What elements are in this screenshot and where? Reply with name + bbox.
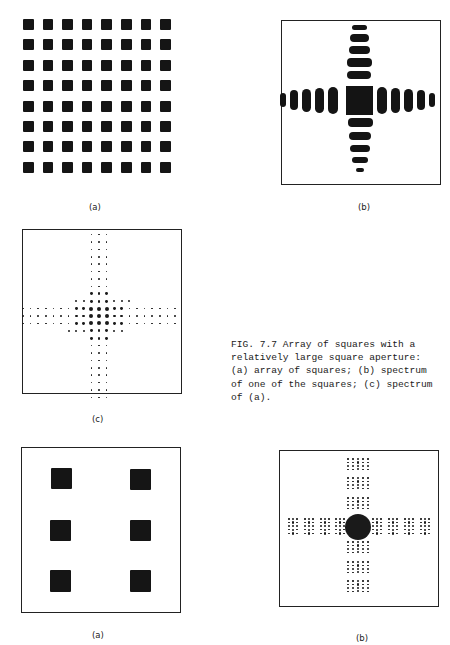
cluster-dot bbox=[347, 572, 348, 573]
cluster-dot bbox=[367, 477, 368, 478]
spectrum-dot bbox=[37, 323, 39, 325]
spectrum-dot bbox=[136, 315, 138, 317]
cluster-dot bbox=[380, 529, 381, 530]
cluster-dot bbox=[362, 561, 363, 562]
cluster-dot bbox=[304, 518, 305, 519]
cluster-dot bbox=[296, 518, 297, 519]
grid-square bbox=[101, 19, 112, 30]
grid-square bbox=[62, 162, 73, 173]
spectrum-dot bbox=[90, 337, 93, 340]
spectrum-dot bbox=[167, 308, 169, 310]
spectrum-dot bbox=[159, 315, 161, 317]
cluster-dot bbox=[367, 568, 369, 570]
cluster-dot bbox=[376, 529, 378, 531]
cluster-dot bbox=[372, 525, 374, 527]
cluster-dot bbox=[424, 521, 426, 523]
spectrum-dot bbox=[68, 315, 70, 317]
spectrum-dot bbox=[82, 322, 85, 325]
cluster-dot bbox=[347, 591, 348, 592]
cluster-dot bbox=[312, 522, 313, 523]
cluster-dot bbox=[304, 529, 305, 530]
spectrum-dot bbox=[144, 315, 146, 317]
cluster-dot bbox=[347, 458, 348, 459]
spectrum-dot bbox=[120, 307, 123, 310]
cluster-dot bbox=[347, 565, 348, 566]
lobe-top bbox=[352, 25, 367, 30]
cluster-dot bbox=[404, 529, 405, 530]
grid-square bbox=[82, 101, 93, 112]
spectrum-dot bbox=[98, 292, 101, 295]
cluster-dot bbox=[347, 469, 348, 470]
spectrum-dot bbox=[53, 323, 55, 325]
cluster-dot bbox=[362, 568, 364, 570]
spectrum-dot bbox=[106, 249, 108, 251]
cluster-dot bbox=[352, 541, 353, 542]
cluster-dot bbox=[362, 504, 364, 506]
spectrum-dot bbox=[113, 307, 116, 310]
grid-square bbox=[121, 19, 132, 30]
cluster-dot bbox=[367, 580, 368, 581]
grid-square bbox=[23, 60, 34, 71]
cluster-dot bbox=[357, 544, 359, 546]
grid-square bbox=[101, 162, 112, 173]
cluster-dot bbox=[347, 508, 348, 509]
spectrum-dot bbox=[37, 308, 39, 310]
spectrum-dot bbox=[91, 286, 93, 288]
spectrum-dot bbox=[91, 397, 93, 399]
cluster-dot bbox=[362, 458, 363, 459]
lobe-top bbox=[347, 71, 371, 79]
cluster-dot bbox=[357, 465, 359, 467]
cluster-dot bbox=[367, 561, 368, 562]
cluster-dot bbox=[304, 533, 305, 534]
spectrum-dot bbox=[113, 315, 116, 318]
spectrum-dot bbox=[98, 352, 100, 354]
lobe-bottom bbox=[348, 118, 373, 127]
spectrum-dot bbox=[75, 307, 78, 310]
spectrum-dot bbox=[106, 374, 108, 376]
grid-square bbox=[62, 101, 73, 112]
spectrum-dot bbox=[30, 315, 32, 317]
cluster-dot bbox=[296, 522, 297, 523]
spectrum-dot bbox=[98, 337, 101, 340]
cluster-dot bbox=[392, 532, 394, 534]
cluster-dot bbox=[324, 532, 326, 534]
cluster-dot bbox=[352, 552, 353, 553]
single-square-spectrum-pattern bbox=[281, 20, 441, 185]
spectrum-dot bbox=[91, 374, 93, 376]
grid-square bbox=[160, 60, 171, 71]
cluster-dot bbox=[328, 522, 329, 523]
cluster-dot bbox=[362, 565, 363, 566]
grid-square bbox=[101, 39, 112, 50]
cluster-dot bbox=[352, 488, 353, 489]
spectrum-dot bbox=[98, 263, 100, 265]
cluster-dot bbox=[362, 552, 363, 553]
cluster-dot bbox=[347, 497, 348, 498]
spectrum-dot bbox=[128, 300, 130, 302]
cluster-dot bbox=[404, 525, 406, 527]
panel-label-top-b: (b) bbox=[358, 202, 370, 212]
spectrum-dot bbox=[106, 360, 108, 362]
cluster-dot bbox=[362, 484, 364, 486]
cluster-dot bbox=[357, 484, 359, 486]
spectrum-dot bbox=[22, 315, 24, 317]
cluster-dot bbox=[328, 525, 330, 527]
cluster-dot bbox=[367, 552, 368, 553]
spectrum-dot bbox=[91, 234, 93, 236]
central-disk bbox=[345, 514, 371, 540]
spectrum-dot bbox=[167, 323, 169, 325]
cluster-dot bbox=[347, 488, 348, 489]
cluster-dot bbox=[362, 488, 363, 489]
grid-square bbox=[121, 60, 132, 71]
panel-c-spectrum-of-array: (c) bbox=[0, 220, 225, 430]
grid-square bbox=[121, 162, 132, 173]
cluster-dot bbox=[380, 525, 382, 527]
spectrum-dot bbox=[129, 323, 131, 325]
cluster-dot bbox=[352, 484, 354, 486]
spectrum-dot bbox=[60, 323, 62, 325]
cluster-dot bbox=[352, 572, 353, 573]
cluster-dot bbox=[324, 518, 326, 520]
lobe-right bbox=[404, 89, 413, 112]
grid-square bbox=[160, 141, 171, 152]
spectrum-dot bbox=[106, 389, 108, 391]
spectrum-dot bbox=[105, 337, 108, 340]
